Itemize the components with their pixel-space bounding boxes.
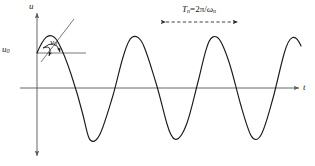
initial-velocity-label: v0 xyxy=(50,38,57,47)
t-axis-label: t xyxy=(303,83,306,92)
u-axis-label: u xyxy=(29,2,34,11)
free-vibration-figure: u t u0 v0 Tn=2π/ωn xyxy=(0,0,315,166)
response-curve xyxy=(37,36,301,142)
omega-subscript: n xyxy=(213,8,216,14)
initial-displacement-label: u0 xyxy=(2,45,10,54)
initial-velocity-subscript: 0 xyxy=(54,41,57,47)
period-label: Tn=2π/ωn xyxy=(182,5,216,14)
initial-displacement-subscript: 0 xyxy=(7,48,10,54)
period-equals: =2 xyxy=(190,4,200,14)
figure-canvas xyxy=(0,0,315,166)
